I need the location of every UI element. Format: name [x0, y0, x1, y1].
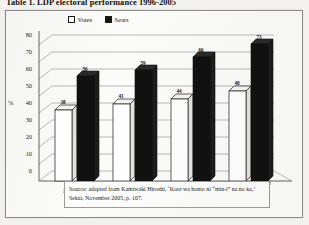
- bar-group-2005: [229, 39, 273, 181]
- bar-votes-2003-front: [171, 99, 188, 181]
- value-seats-2003: 66: [191, 47, 211, 53]
- bar-seats-2000-front: [135, 70, 152, 181]
- y-tick-60: 60: [16, 65, 32, 72]
- bar-group-1996: [55, 71, 99, 181]
- y-axis-unit-label: %: [8, 99, 13, 106]
- bar-votes-1996-front: [55, 110, 72, 181]
- source-note-text: Source: adapted from Kamiwaki Hiroshi, ‘…: [69, 186, 255, 201]
- y-tick-70: 70: [16, 48, 32, 55]
- floor-right-edge: [274, 171, 292, 181]
- bar-votes-2003-side: [188, 94, 193, 181]
- bar-group-2003: [171, 52, 215, 181]
- bar-seats-2000-side: [152, 65, 157, 181]
- bar-seats-2003-front: [193, 57, 210, 181]
- y-tick-40: 40: [16, 99, 32, 106]
- bar-votes-2000-side: [130, 99, 135, 181]
- bar-seats-2005-side: [268, 39, 273, 181]
- bar-seats-2003-side: [210, 52, 215, 181]
- y-tick-20: 20: [16, 133, 32, 140]
- value-votes-2005: 48: [227, 80, 247, 86]
- bar-seats-1996-front: [77, 76, 94, 181]
- source-note-box: Source: adapted from Kamiwaki Hiroshi, ‘…: [64, 181, 270, 208]
- table-caption: Table 1. LDP electoral performance 1996-…: [6, 0, 306, 7]
- y-tick-80: 80: [16, 31, 32, 38]
- bar-votes-2000-front: [113, 104, 130, 181]
- y-tick-50: 50: [16, 82, 32, 89]
- value-seats-1996: 56: [75, 66, 95, 72]
- value-votes-2003: 44: [169, 88, 189, 94]
- y-tick-30: 30: [16, 116, 32, 123]
- bar-votes-2005-side: [246, 86, 251, 181]
- value-seats-2005: 73: [249, 34, 269, 40]
- y-tick-10: 10: [16, 150, 32, 157]
- bar-votes-1996-side: [72, 105, 77, 181]
- bar-votes-2005-front: [229, 91, 246, 181]
- value-votes-2000: 41: [111, 93, 131, 99]
- bar-seats-2005-front: [251, 44, 268, 181]
- y-tick-0: 0: [16, 167, 32, 174]
- value-votes-1996: 38: [53, 99, 73, 105]
- value-seats-2000: 59: [133, 60, 153, 66]
- bar-seats-1996-side: [94, 71, 99, 181]
- figure-frame: Votes Seats: [5, 10, 303, 218]
- axis-depth-edges: [39, 35, 52, 181]
- bar-group-2000: [113, 65, 157, 181]
